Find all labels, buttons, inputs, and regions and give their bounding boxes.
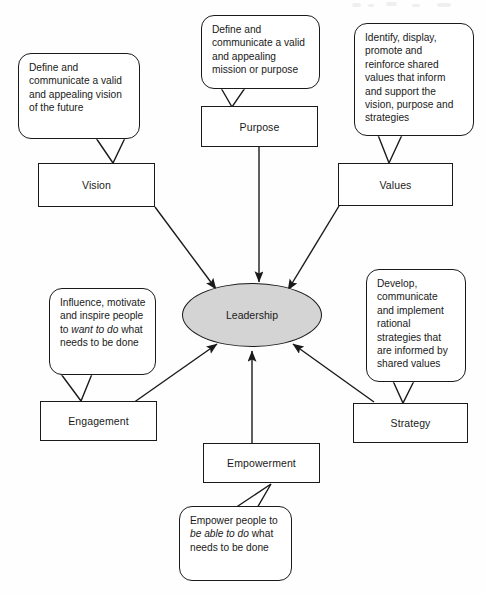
- node-vision-label: Vision: [82, 179, 111, 191]
- node-purpose-label: Purpose: [240, 121, 280, 133]
- connector-strategy-to-hub: [293, 344, 374, 402]
- callout-values: Identify, display, promote and reinforce…: [354, 23, 474, 136]
- callout-tail-empowerment: [235, 484, 271, 508]
- node-vision[interactable]: Vision: [38, 163, 155, 207]
- diagram-canvas: Leadership Vision Purpose Values Engagem…: [0, 0, 486, 594]
- callout-engagement: Influence, motivate and inspire people t…: [49, 288, 156, 375]
- callout-purpose-text: Define and communicate a valid and appea…: [212, 24, 305, 75]
- callout-purpose: Define and communicate a valid and appea…: [201, 15, 320, 89]
- callout-values-text: Identify, display, promote and reinforce…: [365, 32, 453, 123]
- callout-vision-text: Define and communicate a valid and appea…: [29, 62, 122, 113]
- callout-empowerment-emphasis: be able to do: [190, 528, 249, 539]
- node-values-label: Values: [380, 179, 412, 191]
- connector-values-to-hub: [288, 206, 339, 290]
- callout-engagement-text: Influence, motivate and inspire people t…: [60, 297, 146, 348]
- callout-tail-engagement: [61, 374, 92, 401]
- callout-empowerment-text: Empower people to be able to do what nee…: [190, 515, 278, 553]
- node-empowerment[interactable]: Empowerment: [203, 443, 320, 483]
- callout-strategy: Develop, communicate and implement ratio…: [366, 269, 466, 382]
- hub-leadership[interactable]: Leadership: [182, 283, 322, 347]
- node-strategy-label: Strategy: [391, 417, 431, 429]
- node-purpose[interactable]: Purpose: [201, 106, 318, 147]
- callout-tail-vision: [96, 138, 125, 163]
- callout-strategy-text: Develop, communicate and implement ratio…: [377, 278, 448, 369]
- node-strategy[interactable]: Strategy: [353, 403, 468, 443]
- callout-engagement-emphasis: want to do: [71, 324, 118, 335]
- callout-tail-values: [378, 135, 402, 163]
- callout-tail-purpose: [221, 88, 245, 107]
- hub-label: Leadership: [226, 309, 278, 321]
- callout-vision: Define and communicate a valid and appea…: [18, 53, 140, 139]
- node-empowerment-label: Empowerment: [227, 457, 296, 469]
- node-engagement[interactable]: Engagement: [40, 401, 157, 441]
- callout-empowerment: Empower people to be able to do what nee…: [179, 506, 292, 581]
- connector-vision-to-hub: [155, 207, 216, 289]
- node-values[interactable]: Values: [338, 163, 453, 206]
- node-engagement-label: Engagement: [68, 415, 129, 427]
- callout-tail-strategy: [393, 381, 414, 403]
